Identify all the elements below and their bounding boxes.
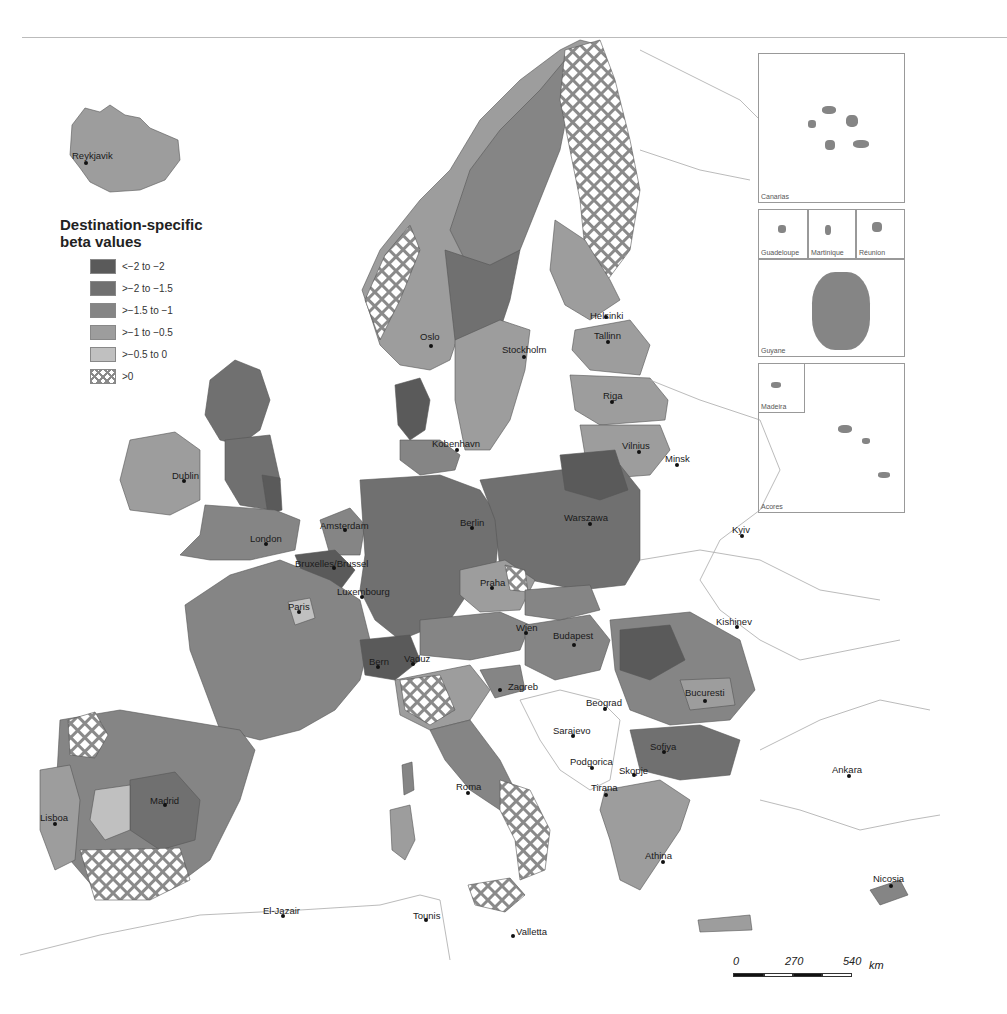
city-dot bbox=[603, 707, 607, 711]
city-dot bbox=[735, 625, 739, 629]
city-dot bbox=[606, 340, 610, 344]
city-dot bbox=[53, 822, 57, 826]
city-label: Stockholm bbox=[502, 344, 546, 355]
city-dot bbox=[376, 665, 380, 669]
legend-title-line2: beta values bbox=[60, 233, 203, 250]
scale-segment-3 bbox=[793, 973, 822, 977]
legend-item: >−0.5 to 0 bbox=[90, 343, 203, 365]
outline-karelia bbox=[640, 50, 760, 180]
inset-box: Guadeloupe bbox=[758, 209, 808, 259]
scale-segment-4 bbox=[822, 973, 852, 977]
legend-label: <−2 to −2 bbox=[122, 261, 165, 272]
city-dot bbox=[588, 522, 592, 526]
legend-item: >−1 to −0.5 bbox=[90, 321, 203, 343]
legend-item: >−1.5 to −1 bbox=[90, 299, 203, 321]
city-label: Vilnius bbox=[622, 440, 650, 451]
inset-island-shape bbox=[872, 222, 882, 232]
legend-item: <−2 to −2 bbox=[90, 255, 203, 277]
outline-north-africa bbox=[20, 895, 450, 960]
city-dot bbox=[424, 918, 428, 922]
city-label: Valletta bbox=[516, 926, 547, 937]
city-dot bbox=[281, 914, 285, 918]
legend-swatch bbox=[90, 281, 116, 296]
city-label: Athina bbox=[645, 850, 672, 861]
city-label: Zagreb bbox=[508, 681, 538, 692]
city-dot bbox=[84, 161, 88, 165]
inset-island-shape bbox=[822, 106, 836, 114]
city-dot bbox=[264, 542, 268, 546]
city-dot bbox=[889, 884, 893, 888]
city-dot bbox=[466, 791, 470, 795]
region-sicily-hatch bbox=[468, 878, 525, 912]
region-crete bbox=[698, 915, 752, 932]
inset-box: Canarias bbox=[758, 53, 905, 203]
legend-label: >−2 to −1.5 bbox=[122, 283, 173, 294]
city-dot bbox=[637, 450, 641, 454]
scale-label-0: 0 bbox=[733, 955, 739, 967]
city-dot bbox=[332, 566, 336, 570]
city-dot bbox=[571, 734, 575, 738]
inset-island-shape bbox=[771, 382, 781, 388]
legend-swatch bbox=[90, 325, 116, 340]
inset-island-shape bbox=[853, 140, 869, 148]
city-dot bbox=[455, 448, 459, 452]
city-dot bbox=[297, 610, 301, 614]
inset-island-shape bbox=[808, 120, 816, 128]
inset-island-shape bbox=[862, 438, 870, 444]
legend-items: <−2 to −2>−2 to −1.5>−1.5 to −1>−1 to −0… bbox=[90, 255, 203, 387]
city-dot bbox=[163, 803, 167, 807]
inset-label: Guadeloupe bbox=[761, 249, 799, 256]
outline-ukraine bbox=[640, 550, 880, 600]
region-corsica bbox=[402, 762, 414, 795]
map-legend: Destination-specific beta values <−2 to … bbox=[60, 216, 203, 387]
inset-island-shape bbox=[825, 225, 831, 235]
region-england-south bbox=[180, 505, 300, 560]
city-label: Bucuresti bbox=[685, 687, 725, 698]
city-dot bbox=[429, 344, 433, 348]
region-slovakia bbox=[525, 585, 600, 620]
inset-label: Guyane bbox=[761, 347, 786, 354]
city-label: Warszawa bbox=[564, 512, 608, 523]
city-label: Nicosia bbox=[873, 873, 904, 884]
legend-label: >−1.5 to −1 bbox=[122, 305, 173, 316]
inset-island-shape bbox=[825, 140, 835, 150]
scale-unit: km bbox=[869, 959, 884, 971]
city-dot bbox=[847, 774, 851, 778]
legend-item: >0 bbox=[90, 365, 203, 387]
city-dot bbox=[675, 463, 679, 467]
region-greece bbox=[600, 780, 690, 890]
city-dot bbox=[498, 688, 502, 692]
inset-island-shape bbox=[838, 425, 852, 433]
region-austria bbox=[420, 612, 530, 660]
city-dot bbox=[661, 860, 665, 864]
legend-title-line1: Destination-specific bbox=[60, 216, 203, 233]
legend-label: >0 bbox=[122, 371, 133, 382]
city-dot bbox=[572, 643, 576, 647]
city-dot bbox=[590, 766, 594, 770]
scale-label-540: 540 bbox=[843, 955, 861, 967]
city-dot bbox=[632, 773, 636, 777]
legend-label: >−1 to −0.5 bbox=[122, 327, 173, 338]
inset-label: Réunion bbox=[859, 249, 885, 256]
scale-segment-1 bbox=[733, 973, 764, 977]
region-estonia bbox=[572, 320, 650, 375]
inset-island-shape bbox=[778, 225, 786, 233]
legend-item: >−2 to −1.5 bbox=[90, 277, 203, 299]
city-dot bbox=[610, 400, 614, 404]
city-dot bbox=[604, 793, 608, 797]
city-label: Oslo bbox=[420, 331, 440, 342]
inset-label: Acores bbox=[761, 503, 783, 510]
region-iceland bbox=[70, 105, 180, 192]
legend-swatch bbox=[90, 259, 116, 274]
inset-box: Réunion bbox=[856, 209, 905, 259]
inset-island-shape bbox=[812, 272, 870, 350]
scale-segment-2 bbox=[764, 973, 793, 977]
city-dot bbox=[522, 355, 526, 359]
scale-label-270: 270 bbox=[785, 955, 803, 967]
region-sweden-south bbox=[455, 320, 530, 450]
city-dot bbox=[182, 479, 186, 483]
city-label: Reykjavik bbox=[72, 150, 113, 161]
inset-box: Martinique bbox=[808, 209, 856, 259]
inset-island-shape bbox=[878, 472, 890, 478]
city-label: Budapest bbox=[553, 630, 593, 641]
